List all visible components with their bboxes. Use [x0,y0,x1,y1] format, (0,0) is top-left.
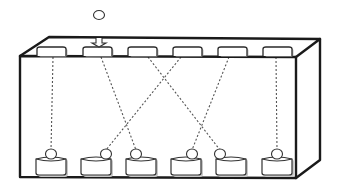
node-circle [187,149,198,159]
node-circle [101,149,112,159]
down-arrow-icon [92,38,106,47]
top-slot [173,47,204,57]
node-circle [131,149,142,159]
incoming-token-group [92,11,106,48]
bottom-containers [36,149,294,177]
top-slot [218,47,249,57]
top-slot [263,47,294,57]
top-slot [37,47,68,57]
bottom-container [36,149,68,177]
dashed-link [192,57,229,150]
bottom-container [126,149,158,177]
dashed-link [276,57,277,150]
box-right-face [296,39,320,178]
node-circle [272,149,283,159]
dashed-links [51,57,277,150]
permutation-box-diagram [0,0,338,192]
top-slot [83,47,114,57]
bottom-container [215,149,249,177]
dashed-link [51,57,53,150]
node-circle [215,149,226,159]
top-slot [128,47,159,57]
dashed-link [148,57,220,150]
dashed-link [101,57,136,150]
bottom-container [171,149,203,177]
node-circle [46,149,57,159]
bottom-container [81,149,113,177]
incoming-token-circle [94,11,105,20]
bottom-container [262,149,294,177]
dashed-link [106,57,181,150]
